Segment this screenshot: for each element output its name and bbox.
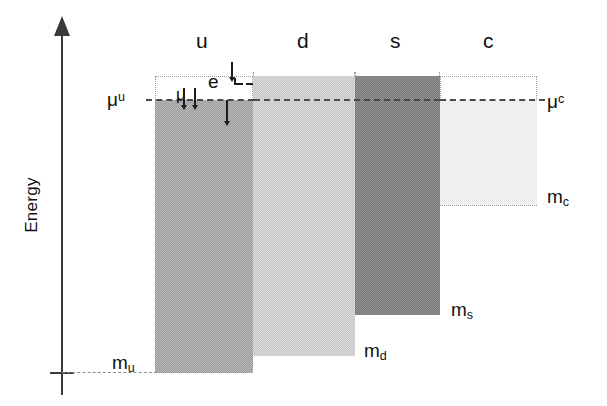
- annotation-arrow-right-icon: [194, 88, 196, 106]
- electron-label: e: [208, 72, 219, 91]
- quark-band-s: [355, 76, 440, 315]
- label-m-d-sub: d: [380, 349, 387, 363]
- well-floor-c: [440, 205, 537, 206]
- y-axis-label: Energy: [22, 115, 42, 295]
- column-header-c: c: [483, 30, 494, 51]
- y-axis-line: [61, 30, 63, 395]
- label-m-c-base: m: [547, 186, 563, 207]
- label-mu-c: μc: [547, 92, 564, 111]
- label-m-s-base: m: [451, 299, 467, 320]
- label-mu-u: μu: [107, 90, 125, 109]
- annotation-arrow-into-sea-icon: [226, 100, 228, 122]
- label-m-c: mc: [547, 187, 569, 208]
- chemical-potential-line-u: [146, 99, 254, 101]
- chemical-potential-line-c: [440, 99, 545, 101]
- label-mu-u-base: μ: [107, 89, 118, 110]
- label-m-u-sub: u: [128, 361, 135, 375]
- label-m-d-base: m: [364, 340, 380, 361]
- annotation-arrow-left-icon: [183, 88, 185, 106]
- baseline-dashed: [62, 372, 157, 373]
- quark-band-d-fill: [253, 76, 355, 356]
- chemical-potential-line-ds: [254, 99, 440, 101]
- label-mu-u-sup: u: [118, 90, 125, 104]
- label-m-u: mu: [112, 353, 135, 374]
- label-m-u-base: m: [112, 352, 128, 373]
- label-m-d: md: [364, 341, 387, 362]
- figure-canvas: Energy u d s c μu μc mc: [0, 0, 607, 406]
- quark-band-c: [440, 100, 537, 205]
- label-m-s: ms: [451, 300, 473, 321]
- quark-band-d: [253, 76, 355, 356]
- label-mu-c-sup: c: [558, 92, 564, 106]
- well-cap-c: [440, 76, 537, 77]
- well-edge-c-left: [440, 76, 441, 100]
- label-m-c-sub: c: [563, 195, 569, 209]
- quark-band-c-fill: [440, 100, 537, 205]
- incoming-down-arrow-icon: [231, 62, 233, 78]
- annotation-hook-horizontal: [234, 83, 243, 85]
- well-edge-u-left: [155, 76, 156, 100]
- label-mu-c-base: μ: [547, 91, 558, 112]
- quark-band-u: [155, 100, 253, 373]
- quark-band-u-fill: [155, 100, 253, 373]
- column-header-s: s: [390, 30, 401, 51]
- annotation-hook-dash: [246, 83, 253, 85]
- well-cap-u: [155, 76, 253, 77]
- label-m-s-sub: s: [467, 308, 473, 322]
- column-header-d: d: [297, 30, 309, 51]
- quark-band-s-fill: [355, 76, 440, 315]
- column-header-u: u: [196, 30, 208, 51]
